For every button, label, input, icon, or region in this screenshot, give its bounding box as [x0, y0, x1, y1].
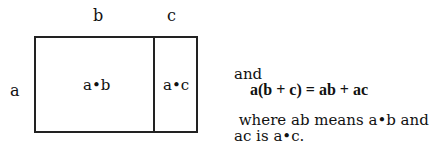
cell-ac-label: a•c [163, 77, 189, 93]
note-line-1: where ab means a•b and [234, 112, 429, 128]
intro-text: and [234, 66, 429, 82]
divider-line [153, 38, 155, 131]
note: where ab means a•b and ac is a•c. [234, 112, 429, 144]
explanation-text: and a(b + c) = ab + ac where ab means a•… [234, 66, 429, 144]
label-c: c [167, 8, 176, 24]
equation: a(b + c) = ab + ac [250, 82, 429, 98]
rectangle: a•b a•c [34, 36, 198, 133]
label-a: a [10, 83, 20, 99]
label-b: b [93, 8, 103, 24]
note-line-2: ac is a•c. [234, 128, 429, 144]
cell-ab-label: a•b [83, 77, 110, 93]
